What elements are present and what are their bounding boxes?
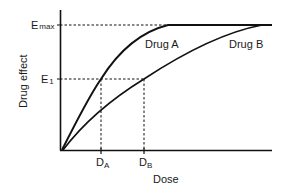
y-axis-title: Drug effect xyxy=(17,54,29,108)
emax-label: Emax xyxy=(31,19,54,31)
da-label: DA xyxy=(96,156,110,170)
drug-b-label: Drug B xyxy=(229,38,263,50)
e1-label: E1 xyxy=(41,73,54,86)
dose-response-chart: Emax E1 DA DB Dose Drug effect Drug A Dr… xyxy=(0,0,285,192)
db-label: DB xyxy=(139,156,152,170)
x-axis-title: Dose xyxy=(153,173,179,185)
drug-a-label: Drug A xyxy=(145,38,179,50)
